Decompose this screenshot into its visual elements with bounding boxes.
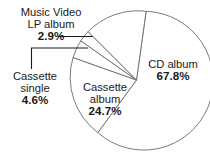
pie-chart-figure: Music Video LP album 2.9% Cassette singl… — [0, 0, 210, 156]
label-cassette-album: Cassette album 24.7% — [72, 81, 138, 118]
label-cassette-album-line1: Cassette — [72, 81, 138, 93]
label-cassette-single-line1: Cassette — [2, 70, 68, 82]
label-cassette-single: Cassette single 4.6% — [2, 70, 68, 107]
label-cd-album-percent: 67.8% — [140, 70, 206, 83]
label-music-video-percent: 2.9% — [6, 30, 96, 43]
label-cd-album: CD album 67.8% — [140, 58, 206, 83]
label-music-video-lp-album: Music Video LP album 2.9% — [6, 6, 96, 43]
label-cassette-album-percent: 24.7% — [72, 105, 138, 118]
label-cassette-single-percent: 4.6% — [2, 94, 68, 107]
label-music-video-line1: Music Video — [6, 6, 96, 18]
